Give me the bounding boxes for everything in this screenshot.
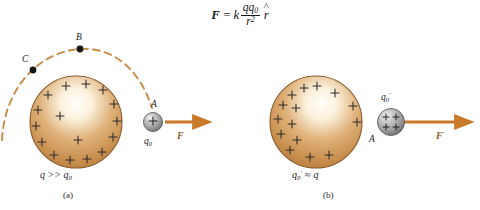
label-condition-a-subscript: 0 bbox=[69, 174, 72, 181]
test-charge-sphere-b bbox=[378, 109, 405, 136]
path-point-c bbox=[30, 67, 37, 74]
label-point-c: C bbox=[22, 55, 28, 65]
label-test-charge-a-subscript: 0 bbox=[149, 140, 152, 147]
label-point-a: A bbox=[151, 100, 157, 110]
label-force-a: F bbox=[177, 131, 184, 141]
label-condition-b-rhs: q bbox=[313, 169, 318, 180]
label-force-b: F' bbox=[436, 131, 445, 141]
label-force-b-symbol: F bbox=[436, 130, 443, 141]
label-point-b: B bbox=[76, 33, 82, 43]
label-condition-b: q0'≈q bbox=[292, 170, 318, 182]
panel-a-artwork bbox=[2, 46, 194, 168]
label-force-b-prime: ' bbox=[443, 130, 445, 137]
panel-b-artwork bbox=[270, 76, 456, 168]
label-test-charge-b-prime: ' bbox=[389, 91, 390, 98]
caption-panel-a: (a) bbox=[63, 190, 73, 200]
caption-panel-b: (b) bbox=[323, 190, 334, 200]
label-condition-a-text: q >> q bbox=[40, 169, 69, 180]
label-test-charge-a: q0 bbox=[144, 137, 152, 147]
source-charge-sphere-b bbox=[270, 76, 362, 168]
source-charge-sphere-a bbox=[30, 76, 122, 168]
label-condition-b-prime: ' bbox=[300, 169, 301, 176]
label-condition-b-relation: ≈ bbox=[305, 169, 311, 180]
label-point-a-b: A bbox=[369, 135, 375, 145]
label-test-charge-b: q0' bbox=[381, 92, 390, 103]
coulombs-law-figure: F=kqq0r2^r bbox=[0, 0, 480, 210]
label-condition-a: q >> q0 bbox=[40, 170, 72, 182]
figure-artwork bbox=[0, 0, 480, 210]
path-point-b bbox=[77, 46, 84, 53]
